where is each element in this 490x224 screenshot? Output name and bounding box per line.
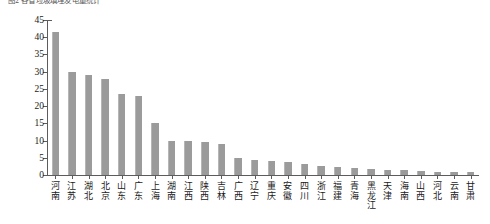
y-tick-label: 35 [22,49,44,59]
x-tick-mark [221,175,222,179]
x-tick-label: 天津 [383,182,393,201]
x-tick-mark [72,175,73,179]
x-tick-mark [371,175,372,179]
x-tick-mark [338,175,339,179]
bar [68,72,75,175]
y-tick-label: 40 [22,32,44,42]
bar [251,160,258,176]
x-tick-label: 福建 [333,182,343,201]
x-tick-mark [122,175,123,179]
x-tick-label: 上海 [150,182,160,201]
x-tick-mark [454,175,455,179]
x-tick-mark [138,175,139,179]
y-tick-label: 30 [22,67,44,77]
x-tick-mark [188,175,189,179]
x-tick-mark [155,175,156,179]
chart-figure: 图2 各省垃圾填埋发电量统计 垃圾填埋发电量（兆瓦） 0510152025303… [0,0,490,224]
x-tick-label: 黑龙江 [366,182,376,211]
x-tick-mark [354,175,355,179]
x-tick-label: 广东 [133,182,143,201]
x-tick-label: 辽宁 [250,182,260,201]
bar [151,123,158,175]
x-tick-mark [172,175,173,179]
x-tick-mark [255,175,256,179]
x-tick-mark [421,175,422,179]
bar [334,167,341,175]
bar [268,161,275,175]
y-tick-label: 5 [22,153,44,163]
x-tick-mark [205,175,206,179]
x-tick-mark [238,175,239,179]
y-tick-label: 20 [22,101,44,111]
x-tick-label: 湖南 [167,182,177,201]
x-tick-mark [437,175,438,179]
bar [184,141,191,175]
y-tick-label: 15 [22,118,44,128]
bar [317,166,324,175]
bar [367,169,374,175]
chart-title: 图2 各省垃圾填埋发电量统计 [8,0,100,5]
bar [85,75,92,175]
x-tick-label: 浙江 [316,182,326,201]
y-axis-line [47,20,48,175]
x-tick-label: 河北 [432,182,442,201]
x-tick-label: 海南 [399,182,409,201]
bar [52,32,59,175]
x-tick-label: 江苏 [67,182,77,201]
x-tick-label: 山东 [117,182,127,201]
x-tick-mark [471,175,472,179]
bar [417,171,424,175]
bar [301,164,308,175]
bar [434,172,441,175]
y-tick-label: 0 [22,170,44,180]
bar [201,142,208,175]
x-tick-label: 河南 [50,182,60,201]
x-tick-label: 甘肃 [466,182,476,201]
x-tick-mark [305,175,306,179]
axis-corner-stub [47,20,52,21]
x-tick-label: 吉林 [216,182,226,201]
plot-area: 051015202530354045 河南江苏湖北北京山东广东上海湖南江西陕西吉… [47,20,479,175]
x-tick-label: 青海 [349,182,359,201]
bar [168,141,175,175]
x-tick-label: 安徽 [283,182,293,201]
x-tick-mark [105,175,106,179]
bar [101,79,108,175]
x-tick-label: 山西 [416,182,426,201]
bar [400,170,407,175]
x-axis-line [47,175,479,176]
bar [284,162,291,175]
x-tick-label: 陕西 [200,182,210,201]
x-tick-label: 北京 [100,182,110,201]
x-tick-label: 湖北 [84,182,94,201]
x-tick-mark [271,175,272,179]
bar [351,168,358,175]
y-tick-label: 25 [22,84,44,94]
y-tick-label: 10 [22,136,44,146]
x-tick-label: 江西 [183,182,193,201]
bar [135,96,142,175]
bar [234,158,241,175]
bar [218,144,225,175]
x-tick-label: 四川 [300,182,310,201]
x-tick-mark [404,175,405,179]
x-tick-mark [288,175,289,179]
bar [467,172,474,175]
bar [118,94,125,175]
x-tick-mark [388,175,389,179]
x-tick-label: 广西 [233,182,243,201]
x-tick-mark [89,175,90,179]
y-tick-label: 45 [22,15,44,25]
x-tick-mark [55,175,56,179]
bar [384,170,391,175]
x-tick-label: 重庆 [266,182,276,201]
bar [450,172,457,175]
x-tick-mark [321,175,322,179]
x-tick-label: 云南 [449,182,459,201]
